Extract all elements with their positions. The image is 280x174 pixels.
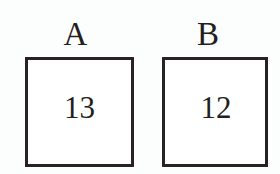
box-value-a: 13 (28, 60, 131, 164)
box-label-a: A (21, 14, 130, 54)
labeled-box-group-b: B 12 (162, 0, 268, 174)
diagram-canvas: A 13 B 12 (0, 0, 280, 174)
box-b: 12 (162, 57, 268, 167)
labeled-box-group-a: A 13 (25, 0, 134, 174)
box-a: 13 (25, 57, 134, 167)
box-value-b: 12 (165, 60, 265, 164)
box-label-b: B (155, 14, 261, 54)
